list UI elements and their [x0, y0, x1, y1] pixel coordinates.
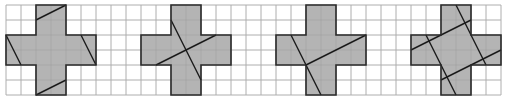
grid-overlay [6, 5, 501, 95]
cross-cutting-diagram [0, 0, 518, 103]
